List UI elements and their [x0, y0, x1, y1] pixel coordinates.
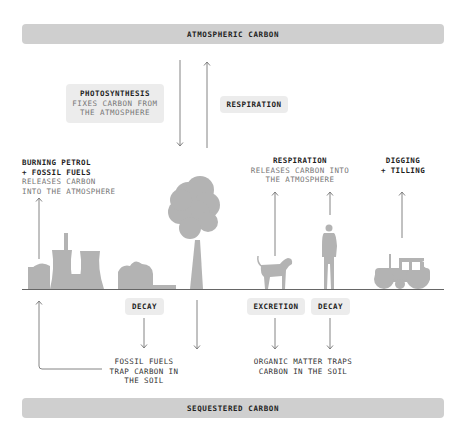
bush-icon	[118, 261, 176, 289]
fossil-to-burning-arrow	[39, 301, 102, 369]
organic-trap-line1: ORGANIC MATTER TRAPS	[240, 357, 366, 367]
carbon-cycle-illustration	[0, 0, 461, 437]
decay-right-label: DECAY	[318, 302, 343, 311]
excretion-label: EXCRETION	[253, 302, 298, 311]
excretion-pill: EXCRETION	[247, 298, 305, 315]
sequestered-carbon-bar: SEQUESTERED CARBON	[22, 398, 444, 418]
fossil-trap-line1: FOSSIL FUELS	[104, 357, 184, 367]
fossil-trap-line2: TRAP CARBON IN	[104, 367, 184, 377]
fossil-trap-line3: THE SOIL	[104, 376, 184, 386]
decay-left-label: DECAY	[132, 302, 157, 311]
organic-trap-line2: CARBON IN THE SOIL	[240, 367, 366, 377]
person-icon	[322, 225, 337, 290]
decay-right-pill: DECAY	[311, 298, 350, 315]
fossil-trap-label: FOSSIL FUELS TRAP CARBON IN THE SOIL	[104, 357, 184, 386]
organic-trap-label: ORGANIC MATTER TRAPS CARBON IN THE SOIL	[240, 357, 366, 376]
dog-icon	[258, 256, 292, 289]
tractor-icon	[374, 254, 430, 289]
tree-icon	[168, 176, 220, 289]
decay-left-pill: DECAY	[125, 298, 164, 315]
sequestered-carbon-label: SEQUESTERED CARBON	[187, 404, 279, 413]
